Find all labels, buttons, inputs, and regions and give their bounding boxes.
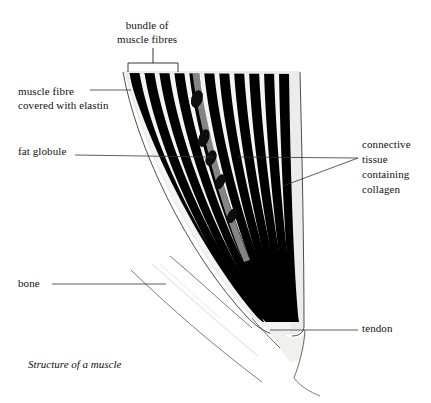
label-bundle-of-muscle-fibres: bundle of muscle fibres — [117, 18, 177, 46]
bundle-bracket — [128, 48, 178, 72]
label-fat-globule: fat globule — [18, 145, 66, 158]
figure-caption: Structure of a muscle — [28, 358, 121, 370]
label-fibre-line2: covered with elastin — [18, 98, 109, 112]
label-tendon: tendon — [362, 322, 393, 335]
label-connective-line1: connective — [362, 137, 411, 152]
label-bundle-line1: bundle of — [117, 18, 177, 32]
label-bone: bone — [18, 277, 40, 290]
muscle-belly-group — [123, 70, 304, 336]
bracket-shape — [128, 63, 178, 72]
muscle-structure-figure — [0, 0, 431, 403]
label-muscle-fibre-covered-with-elastin: muscle fibre covered with elastin — [18, 84, 109, 112]
tendon-outline-lower — [294, 378, 320, 396]
label-connective-line3: containing — [362, 167, 411, 182]
label-fibre-line1: muscle fibre — [18, 84, 109, 98]
label-connective-line2: tissue — [362, 152, 411, 167]
label-connective-line4: collagen — [362, 182, 411, 197]
label-bundle-line2: muscle fibres — [117, 32, 177, 46]
label-connective-tissue-containing-collagen: connective tissue containing collagen — [362, 137, 411, 197]
